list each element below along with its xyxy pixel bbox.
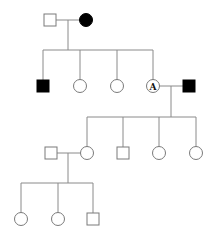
male-unaffected-I-1 [44, 14, 56, 26]
female-affected-I-2 [80, 14, 93, 27]
marker-label-A: A [149, 82, 158, 92]
male-affected-II-5 [183, 80, 195, 92]
female-unaffected-III-1 [81, 147, 94, 160]
female-unaffected-III-3 [153, 147, 166, 160]
pedigree-diagram: A [0, 0, 215, 236]
female-unaffected-II-3 [111, 80, 124, 93]
male-unaffected-III-0 [45, 147, 57, 159]
male-unaffected-IV-3 [87, 213, 99, 225]
female-unaffected-IV-1 [15, 213, 28, 226]
female-unaffected-II-2 [74, 80, 87, 93]
female-unaffected-III-4 [190, 147, 203, 160]
male-affected-II-1 [37, 80, 49, 92]
female-unaffected-IV-2 [52, 213, 65, 226]
male-unaffected-III-2 [117, 147, 129, 159]
